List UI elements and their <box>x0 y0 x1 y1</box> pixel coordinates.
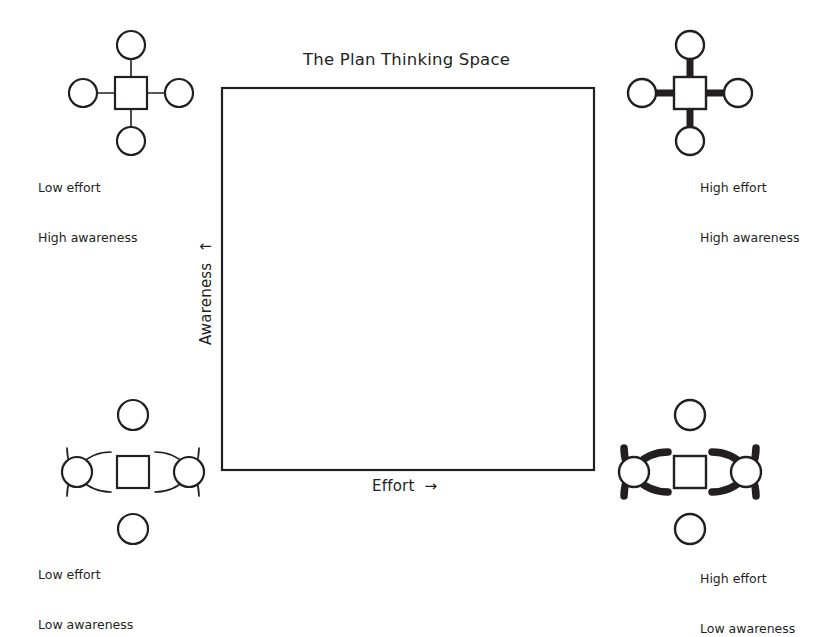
drone-body-square <box>674 77 706 109</box>
quadrant-label-line2: Low awareness <box>700 621 795 637</box>
drone-rotor-right <box>174 457 204 487</box>
y-axis-label-text: Awareness <box>197 263 215 345</box>
drone-body-square <box>117 456 149 488</box>
quadrant-label-line2: High awareness <box>700 230 799 247</box>
quadrant-label-bottom-right: High effort Low awareness <box>700 538 795 637</box>
plot-area-box <box>222 88 594 470</box>
quadrant-label-line1: Low effort <box>38 567 133 584</box>
drone-icon-top-right <box>628 31 752 155</box>
quadrant-label-bottom-left: Low effort Low awareness <box>38 534 133 637</box>
drone-rotor-left <box>69 79 97 107</box>
drone-icon-bottom-left <box>62 400 204 544</box>
drone-body-square <box>674 456 706 488</box>
drone-rotor-top <box>676 31 704 59</box>
drone-body-square <box>115 77 147 109</box>
quadrant-label-line2: High awareness <box>38 230 137 247</box>
drone-rotor-right <box>724 79 752 107</box>
drone-rotor-left <box>619 457 649 487</box>
quadrant-label-line1: High effort <box>700 571 795 588</box>
drone-rotor-top <box>675 400 705 430</box>
x-axis-label: Effort → <box>372 477 437 495</box>
drone-rotor-right <box>731 457 761 487</box>
diagram-title: The Plan Thinking Space <box>303 50 510 69</box>
drone-icon-top-left <box>69 31 193 155</box>
drone-rotor-left <box>628 79 656 107</box>
quadrant-label-line1: High effort <box>700 180 799 197</box>
drone-rotor-top <box>118 400 148 430</box>
x-axis-arrow-icon: → <box>424 477 437 495</box>
quadrant-label-top-left: Low effort High awareness <box>38 147 137 279</box>
x-axis-label-text: Effort <box>372 477 414 495</box>
drone-rotor-left <box>62 457 92 487</box>
quadrant-label-top-right: High effort High awareness <box>700 147 799 279</box>
drone-icon-bottom-right <box>619 400 761 544</box>
drone-rotor-right <box>165 79 193 107</box>
drone-rotor-top <box>117 31 145 59</box>
y-axis-label: Awareness ↑ <box>197 240 215 345</box>
y-axis-arrow-icon: ↑ <box>197 240 215 253</box>
quadrant-label-line2: Low awareness <box>38 617 133 634</box>
quadrant-label-line1: Low effort <box>38 180 137 197</box>
